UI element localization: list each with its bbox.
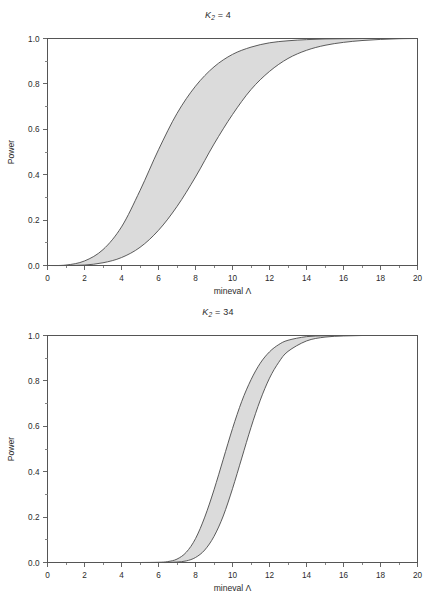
x-tick-label: 4 (119, 571, 124, 580)
x-tick-label: 18 (376, 571, 386, 580)
power-band-fill (48, 335, 418, 562)
figure-page: K2 = 4 02468101214161820mineval Λ0.00.20… (0, 0, 436, 593)
y-tick-label: 0.8 (28, 80, 40, 89)
y-tick-label: 0.6 (28, 422, 40, 431)
y-tick-label: 0.0 (28, 262, 40, 271)
x-tick-label: 18 (376, 274, 386, 283)
x-tick-label: 20 (413, 571, 423, 580)
x-tick-label: 10 (228, 571, 238, 580)
plot-area-top: 02468101214161820mineval Λ0.00.20.40.60.… (0, 0, 436, 296)
x-tick-label: 12 (265, 571, 275, 580)
y-tick-label: 0.4 (28, 171, 40, 180)
y-tick-label: 0.6 (28, 125, 40, 134)
x-tick-label: 2 (82, 274, 87, 283)
chart-panel-top: K2 = 4 02468101214161820mineval Λ0.00.20… (0, 0, 436, 296)
y-tick-label: 0.2 (28, 216, 40, 225)
x-tick-label: 14 (302, 274, 312, 283)
y-tick-label: 1.0 (28, 35, 40, 44)
y-tick-label: 0.4 (28, 468, 40, 477)
x-tick-label: 16 (339, 571, 349, 580)
x-tick-label: 2 (82, 571, 87, 580)
x-tick-label: 0 (45, 571, 50, 580)
y-tick-label: 1.0 (28, 332, 40, 341)
x-tick-label: 20 (413, 274, 423, 283)
x-tick-label: 12 (265, 274, 275, 283)
plot-area-bottom: 02468101214161820mineval Λ0.00.20.40.60.… (0, 297, 436, 593)
power-band-fill (48, 38, 418, 265)
x-tick-label: 0 (45, 274, 50, 283)
x-tick-label: 8 (193, 274, 198, 283)
x-axis-title: mineval Λ (214, 286, 252, 296)
y-tick-label: 0.0 (28, 559, 40, 568)
y-tick-label: 0.2 (28, 513, 40, 522)
x-tick-label: 16 (339, 274, 349, 283)
x-tick-label: 14 (302, 571, 312, 580)
chart-panel-bottom: K2 = 34 02468101214161820mineval Λ0.00.2… (0, 297, 436, 593)
x-tick-label: 8 (193, 571, 198, 580)
y-axis-title: Power (6, 437, 16, 461)
y-tick-label: 0.8 (28, 377, 40, 386)
x-tick-label: 6 (156, 274, 161, 283)
x-tick-label: 6 (156, 571, 161, 580)
y-axis-title: Power (6, 140, 16, 164)
x-tick-label: 4 (119, 274, 124, 283)
x-axis-title: mineval Λ (214, 583, 252, 593)
x-tick-label: 10 (228, 274, 238, 283)
